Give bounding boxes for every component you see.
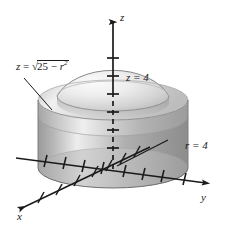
radicand-minus: − (51, 60, 57, 72)
sphere-equation-radical: √25 − r2 (32, 60, 69, 72)
x-axis-label: x (17, 211, 22, 222)
plane-equation-label: z = 4 (126, 72, 149, 83)
y-axis-label: y (201, 192, 206, 203)
radicand-exponent: 2 (64, 59, 68, 67)
sphere-equation-equals: = (23, 60, 29, 72)
figure-canvas: z y x z = √25 − r2 z = 4 r = 4 (0, 0, 227, 231)
radicand: 25 − r2 (37, 60, 69, 72)
z-axis-label: z (120, 12, 124, 23)
sphere-equation-lhs: z (16, 60, 20, 72)
sphere-equation-label: z = √25 − r2 (16, 60, 69, 72)
radicand-constant: 25 (37, 60, 48, 72)
solid-of-revolution-diagram (0, 0, 227, 231)
cylinder-equation-label: r = 4 (185, 140, 208, 151)
